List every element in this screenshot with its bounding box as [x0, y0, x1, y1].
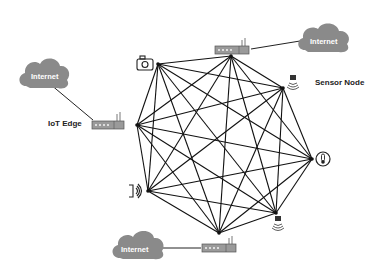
router-bottom-device [202, 236, 236, 252]
mesh-links [137, 56, 312, 233]
thermometer-icon [316, 152, 330, 166]
mesh-node-thermometer [310, 157, 314, 161]
mesh-node-router-top [229, 54, 233, 58]
wireless-sensor-icon [287, 75, 299, 90]
sensor-node-label: Sensor Node [315, 78, 364, 87]
mesh-link [137, 64, 158, 125]
cloud-label: Internet [31, 72, 59, 81]
mesh-link [158, 64, 219, 233]
router-top-device [215, 38, 249, 54]
mesh-node-wifi-bottom-right [274, 211, 278, 215]
mesh-link [231, 56, 312, 159]
iot-edge-label: IoT Edge [48, 119, 82, 128]
mesh-link [158, 56, 231, 64]
sound-sensor-icon [129, 184, 142, 198]
router-left-device [92, 112, 124, 129]
wireless-sensor-icon [272, 216, 284, 231]
camera-icon [137, 56, 153, 70]
mesh-link [219, 213, 276, 233]
uplink-top-right [251, 41, 300, 49]
mesh-node-router-left [135, 123, 139, 127]
mesh-link [148, 159, 312, 191]
mesh-node-camera [156, 62, 160, 66]
mesh-node-speaker [146, 189, 150, 193]
iot-mesh-diagram: Internet Internet Internet [0, 0, 382, 274]
uplink-left [50, 84, 93, 120]
mesh-link [148, 56, 231, 191]
mesh-link [219, 159, 312, 233]
internet-cloud-left: Internet [19, 59, 69, 89]
mesh-link [283, 88, 312, 159]
cloud-label: Internet [121, 245, 149, 254]
mesh-node-wifi-top-right [281, 86, 285, 90]
internet-cloud-top-right: Internet [298, 24, 349, 53]
mesh-link [219, 56, 231, 233]
mesh-link [137, 56, 231, 125]
mesh-link [276, 88, 283, 213]
cloud-label: Internet [310, 37, 338, 46]
mesh-link [148, 88, 283, 191]
mesh-link [137, 125, 148, 191]
uplinks [50, 41, 300, 248]
mesh-node-router-bottom [217, 231, 221, 235]
mesh-link [137, 88, 283, 125]
internet-cloud-bottom: Internet [113, 231, 164, 259]
mesh-link [276, 159, 312, 213]
